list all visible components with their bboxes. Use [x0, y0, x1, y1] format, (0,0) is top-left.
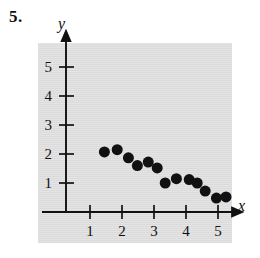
scatter-plot-figure: 5. y x 5 4 3 2 1 1 2 3: [0, 0, 260, 258]
data-point: [132, 160, 143, 171]
data-point: [99, 146, 110, 157]
y-axis-label: y: [58, 16, 65, 32]
x-tick-label-4: 4: [179, 224, 193, 239]
data-point: [160, 178, 171, 189]
data-point: [211, 193, 222, 204]
x-axis-label: x: [238, 198, 245, 214]
axis-ticks: [59, 67, 218, 219]
data-point: [221, 191, 232, 202]
data-point: [171, 173, 182, 184]
y-tick-label-4: 4: [40, 89, 52, 104]
data-point: [200, 186, 211, 197]
x-tick-label-1: 1: [83, 224, 97, 239]
data-points: [99, 144, 232, 203]
data-point: [112, 144, 123, 155]
data-point: [192, 178, 203, 189]
data-point: [123, 152, 134, 163]
x-tick-label-2: 2: [115, 224, 129, 239]
y-tick-label-2: 2: [40, 147, 52, 162]
y-tick-label-1: 1: [40, 176, 52, 191]
y-tick-label-5: 5: [40, 60, 52, 75]
data-point: [152, 162, 163, 173]
x-tick-label-3: 3: [147, 224, 161, 239]
plot-drawing: [0, 0, 260, 258]
x-tick-label-5: 5: [211, 224, 225, 239]
y-tick-label-3: 3: [40, 118, 52, 133]
